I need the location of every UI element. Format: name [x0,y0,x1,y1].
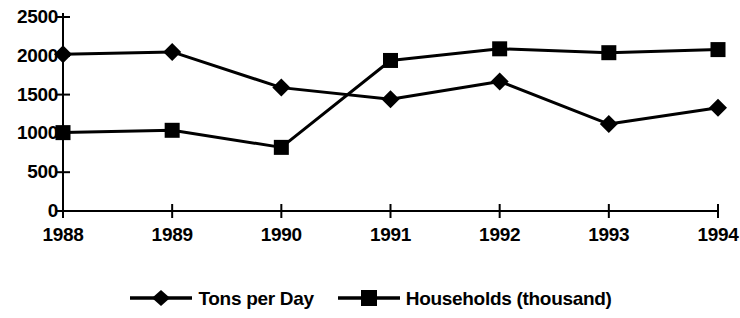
series-markers [54,41,727,155]
x-axis-tick-label: 1994 [678,225,740,244]
x-axis-tick-label: 1992 [460,225,540,244]
data-point-diamond-icon [163,43,181,61]
data-point-diamond-icon [600,115,618,133]
data-point-diamond-icon [272,79,290,97]
data-point-square-icon [711,42,726,57]
legend-label-tons-per-day: Tons per Day [194,289,313,308]
legend-item-tons-per-day: Tons per Day [128,287,313,309]
data-point-square-icon [601,45,616,60]
x-axis-tick-label: 1991 [351,225,431,244]
y-axis-tick-label: 2000 [0,46,58,65]
data-point-square-icon [492,41,507,56]
data-point-square-icon [383,53,398,68]
plot-area [0,0,740,318]
data-point-diamond-icon [491,72,509,90]
y-axis-tick-label: 0 [0,201,58,220]
x-axis-tick-label: 1989 [132,225,212,244]
data-point-square-icon [165,123,180,138]
data-point-diamond-icon [382,90,400,108]
legend-marker-diamond-icon [128,287,194,309]
legend-label-households: Households (thousand) [402,289,612,308]
y-axis-tick-label: 500 [0,162,58,181]
y-axis-tick-label: 1500 [0,85,58,104]
chart-legend: Tons per Day Households (thousand) [0,281,740,315]
data-point-diamond-icon [709,99,727,117]
line-chart: 25002000150010005000 1988198919901991199… [0,0,740,318]
x-axis-tick-label: 1990 [241,225,321,244]
legend-marker-square-icon [336,287,402,309]
legend-item-households: Households (thousand) [336,287,612,309]
axes [63,13,718,211]
data-point-square-icon [274,140,289,155]
x-axis-tick-label: 1988 [23,225,103,244]
y-axis-tick-label: 2500 [0,7,58,26]
y-axis-tick-label: 1000 [0,123,58,142]
x-axis-tick-label: 1993 [569,225,649,244]
